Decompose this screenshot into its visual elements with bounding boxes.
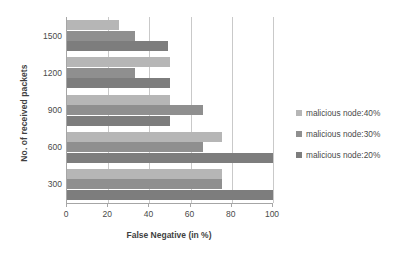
legend-item-3[interactable]: malicious node:20% bbox=[296, 150, 402, 160]
y-axis-tick-labels: 15001200900600300 bbox=[26, 17, 62, 203]
x-tick-mark-60 bbox=[190, 203, 191, 207]
bar-600-series-3 bbox=[67, 153, 273, 163]
bar-900-series-1 bbox=[67, 95, 170, 105]
legend-swatch-icon bbox=[296, 131, 302, 137]
x-tick-mark-0 bbox=[66, 203, 67, 207]
x-axis-line bbox=[66, 203, 273, 204]
legend-swatch-icon bbox=[296, 152, 302, 158]
bar-300-series-2 bbox=[67, 179, 222, 189]
x-axis-title: False Negative (in %) bbox=[66, 230, 272, 240]
legend-item-1[interactable]: malicious node:40% bbox=[296, 108, 402, 118]
x-tick-mark-100 bbox=[272, 203, 273, 207]
x-axis-tick-labels: 020406080100 bbox=[66, 209, 272, 223]
y-tick-label-1200: 1200 bbox=[43, 68, 62, 78]
bar-600-series-1 bbox=[67, 132, 222, 142]
bar-1200-series-1 bbox=[67, 57, 170, 67]
x-tick-label-0: 0 bbox=[64, 209, 69, 219]
y-tick-label-900: 900 bbox=[48, 105, 62, 115]
bar-group-1500 bbox=[67, 20, 273, 51]
bar-group-1200 bbox=[67, 57, 273, 88]
x-tick-label-80: 80 bbox=[226, 209, 235, 219]
bar-group-600 bbox=[67, 132, 273, 163]
x-tick-label-20: 20 bbox=[102, 209, 111, 219]
y-tick-label-300: 300 bbox=[48, 179, 62, 189]
x-tick-label-40: 40 bbox=[144, 209, 153, 219]
bar-1500-series-3 bbox=[67, 41, 168, 51]
plot-area bbox=[66, 17, 273, 203]
bar-1500-series-1 bbox=[67, 20, 119, 30]
legend-label: malicious node:20% bbox=[306, 150, 380, 160]
bar-1200-series-3 bbox=[67, 78, 170, 88]
x-tick-mark-40 bbox=[148, 203, 149, 207]
bar-900-series-3 bbox=[67, 116, 170, 126]
bar-group-900 bbox=[67, 95, 273, 126]
x-tick-label-100: 100 bbox=[265, 209, 279, 219]
bar-600-series-2 bbox=[67, 142, 203, 152]
legend-item-2[interactable]: malicious node:30% bbox=[296, 129, 402, 139]
bar-group-300 bbox=[67, 169, 273, 200]
x-tick-mark-80 bbox=[231, 203, 232, 207]
gridline-100 bbox=[273, 17, 274, 203]
legend-label: malicious node:40% bbox=[306, 108, 380, 118]
bar-chart: No. of received packets 1500120090060030… bbox=[0, 0, 405, 259]
bar-300-series-1 bbox=[67, 169, 222, 179]
bar-300-series-3 bbox=[67, 190, 273, 200]
legend: malicious node:40%malicious node:30%mali… bbox=[296, 108, 402, 171]
y-tick-label-1500: 1500 bbox=[43, 31, 62, 41]
x-tick-mark-20 bbox=[107, 203, 108, 207]
legend-swatch-icon bbox=[296, 110, 302, 116]
legend-label: malicious node:30% bbox=[306, 129, 380, 139]
y-tick-label-600: 600 bbox=[48, 142, 62, 152]
bar-900-series-2 bbox=[67, 105, 203, 115]
bar-1500-series-2 bbox=[67, 31, 135, 41]
x-tick-label-60: 60 bbox=[185, 209, 194, 219]
bar-1200-series-2 bbox=[67, 68, 135, 78]
